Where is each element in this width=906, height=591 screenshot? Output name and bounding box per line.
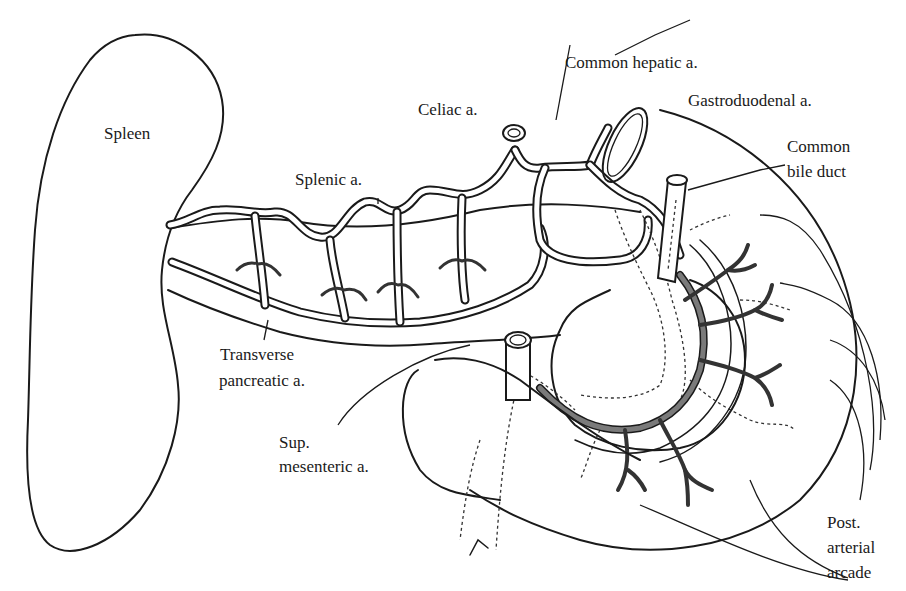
label-common-bile-duct-2: bile duct [787, 162, 846, 181]
label-gastroduodenal-artery: Gastroduodenal a. [688, 91, 812, 110]
transverse-pancreatic-artery [172, 228, 544, 323]
label-spleen: Spleen [104, 124, 151, 143]
label-post-arterial-1: Post. [827, 513, 861, 532]
diagram-canvas: Spleen Splenic a. Celiac a. Common hepat… [0, 0, 906, 591]
label-splenic-artery: Splenic a. [295, 170, 362, 189]
label-sup-mesenteric-2: mesenteric a. [279, 457, 369, 476]
label-transverse-pancreatic-2: pancreatic a. [219, 371, 305, 390]
label-transverse-pancreatic-1: Transverse [220, 345, 294, 364]
common-bile-duct [658, 175, 687, 282]
label-common-bile-duct-1: Common [787, 137, 851, 156]
label-common-hepatic-artery: Common hepatic a. [565, 53, 698, 72]
superior-mesenteric-artery [505, 332, 531, 400]
arrow-mark [470, 540, 488, 555]
label-post-arterial-3: arcade [827, 563, 871, 582]
spleen-outline [27, 34, 223, 550]
label-post-arterial-2: arterial [827, 538, 875, 557]
twig-branches [237, 260, 485, 300]
label-sup-mesenteric-1: Sup. [279, 433, 310, 452]
label-celiac-artery: Celiac a. [418, 100, 477, 119]
celiac-artery-stump [503, 125, 525, 141]
pancreas-arterial-diagram: Spleen Splenic a. Celiac a. Common hepat… [0, 0, 906, 591]
